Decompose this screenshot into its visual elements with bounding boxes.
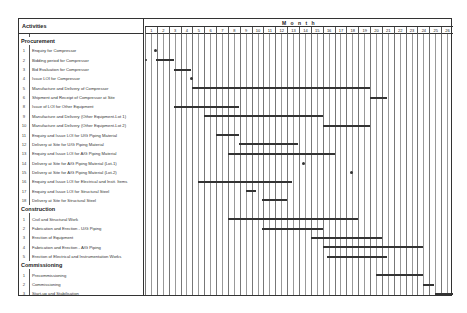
task-row: 1Enquiry for Compressor [19, 46, 144, 55]
task-number: 2 [20, 224, 28, 233]
task-bar [370, 97, 387, 99]
task-label: Precommissioning [32, 271, 66, 280]
month-label: 2 [157, 27, 169, 34]
activities-panel: Activities Procurement1Enquiry for Compr… [19, 19, 144, 295]
month-gridline [287, 34, 288, 295]
task-label: Delivery at Site for A/G Piping Material… [32, 168, 117, 177]
task-number: 13 [20, 149, 28, 158]
month-label: 20 [370, 27, 382, 34]
task-number: 2 [20, 280, 28, 289]
section-header: Construction [21, 205, 57, 213]
half-month-gridline [175, 34, 176, 295]
task-number: 3 [20, 65, 28, 74]
task-row: 1Civil and Structural Work [19, 215, 144, 224]
task-bar [228, 153, 335, 155]
task-row: 16Enquiry and Issue LOI for Electrical a… [19, 177, 144, 186]
task-number: 14 [20, 159, 28, 168]
task-row: 15Delivery at Site for A/G Piping Materi… [19, 168, 144, 177]
task-bar [174, 69, 191, 71]
section-header: Procurement [21, 37, 57, 45]
month-gridline [157, 34, 158, 295]
half-month-gridline [186, 34, 187, 295]
gantt-chart: Activities Procurement1Enquiry for Compr… [18, 18, 452, 296]
month-gridline [145, 34, 146, 295]
task-row: 9Manufacture and Delivery (Other Equipme… [19, 112, 144, 121]
task-row: 11Enquiry and Issue LOI for U/G Piping M… [19, 131, 144, 140]
task-bar [174, 106, 239, 108]
task-label: Civil and Structural Work [32, 215, 78, 224]
task-bar [204, 115, 322, 117]
month-label: 7 [216, 27, 228, 34]
timeline-grid: M o n t h 123456789101112131415161718192… [145, 19, 453, 295]
task-number: 9 [20, 112, 28, 121]
task-row: 2Fabrication and Erection - U/G Piping [19, 224, 144, 233]
half-month-gridline [281, 34, 282, 295]
task-number: 11 [20, 131, 28, 140]
month-label: 11 [263, 27, 275, 34]
month-label: 16 [323, 27, 335, 34]
task-label: Delivery at Site for Structural Steel [32, 196, 96, 205]
month-label: 4 [181, 27, 193, 34]
task-label: Delivery at Site for U/G Piping Material [32, 140, 104, 149]
half-month-gridline [305, 34, 306, 295]
month-gridline [429, 34, 430, 295]
month-gridline [240, 34, 241, 295]
task-row: 3Start-up and Stabilisation [19, 289, 144, 298]
month-gridline [192, 34, 193, 295]
month-label: 26 [441, 27, 453, 34]
task-bar [376, 274, 423, 276]
section-header: Commissioning [21, 261, 64, 269]
month-label: 3 [169, 27, 181, 34]
task-number: 1 [20, 46, 28, 55]
month-label: 10 [252, 27, 264, 34]
task-bar [239, 143, 298, 145]
month-label: 1 [145, 27, 157, 34]
task-bar [192, 87, 370, 89]
half-month-gridline [269, 34, 270, 295]
half-month-gridline [388, 34, 389, 295]
month-label: 21 [382, 27, 394, 34]
task-label: Enquiry and Issue LOI for U/G Piping Mat… [32, 131, 117, 140]
half-month-gridline [412, 34, 413, 295]
half-month-gridline [400, 34, 401, 295]
task-row: 13Enquiry and Issue LOI for A/G Piping M… [19, 149, 144, 158]
task-label: Manufacture and Delivery of Compressor [32, 84, 108, 93]
task-row: 3Bid Evaluation for Compressor [19, 65, 144, 74]
half-month-gridline [293, 34, 294, 295]
task-label: Enquiry for Compressor [32, 46, 76, 55]
month-gridline [299, 34, 300, 295]
month-label: 22 [394, 27, 406, 34]
half-month-gridline [447, 34, 448, 295]
half-month-gridline [210, 34, 211, 295]
marker-dot [145, 59, 147, 61]
month-label: 9 [240, 27, 252, 34]
task-number: 10 [20, 121, 28, 130]
task-number: 17 [20, 187, 28, 196]
task-label: Issue of LOI for Other Equipment [32, 102, 93, 111]
task-bar [435, 293, 453, 295]
task-bar [262, 199, 287, 201]
month-label: 6 [204, 27, 216, 34]
task-label: Commissioning [32, 280, 61, 289]
task-number: 2 [20, 56, 28, 65]
task-row: 2Commissioning [19, 280, 144, 289]
month-gridline [204, 34, 205, 295]
task-number: 1 [20, 271, 28, 280]
task-number: 8 [20, 102, 28, 111]
half-month-gridline [163, 34, 164, 295]
task-bar [228, 218, 358, 220]
month-label: 17 [335, 27, 347, 34]
task-bar [156, 59, 174, 61]
half-month-gridline [435, 34, 436, 295]
task-row: 1Precommissioning [19, 271, 144, 280]
month-gridline [228, 34, 229, 295]
milestone-marker [302, 162, 305, 165]
task-number: 4 [20, 243, 28, 252]
task-row: 10Manufacture and Delivery (Other Equipm… [19, 121, 144, 130]
task-number: 12 [20, 140, 28, 149]
month-gridline [263, 34, 264, 295]
month-label: 12 [275, 27, 287, 34]
task-bar [323, 246, 424, 248]
half-month-gridline [234, 34, 235, 295]
task-number: 3 [20, 289, 28, 298]
